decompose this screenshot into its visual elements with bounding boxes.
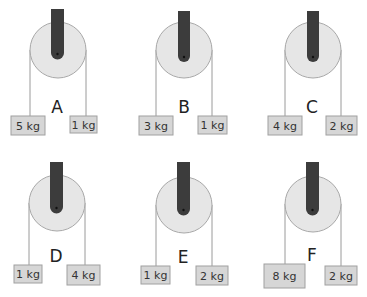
pulley-system-e: E 1 kg 2 kg (141, 162, 228, 285)
right-mass-label: 4 kg (72, 269, 96, 282)
pulley-mount (177, 162, 190, 216)
pulley-mount (50, 162, 63, 214)
right-mass-label: 2 kg (200, 270, 224, 283)
system-label: B (178, 97, 190, 117)
left-mass-label: 1 kg (144, 269, 168, 282)
system-label: E (178, 247, 189, 267)
pulley-system-d: D 1 kg 4 kg (14, 162, 100, 285)
system-label: C (306, 97, 318, 117)
left-mass-label: 3 kg (144, 120, 168, 133)
left-mass-label: 1 kg (16, 268, 40, 281)
axle-icon (311, 209, 313, 211)
pulley-system-a: A 5 kg 1 kg (11, 9, 97, 135)
axle-icon (182, 209, 184, 211)
right-mass-label: 2 kg (329, 270, 353, 283)
pulley-mount (307, 11, 319, 62)
system-label: D (49, 246, 62, 266)
left-mass-label: 5 kg (16, 120, 40, 133)
right-mass-label: 1 kg (72, 119, 96, 132)
right-mass-label: 2 kg (330, 120, 354, 133)
pulley-system-b: B 3 kg 1 kg (139, 11, 227, 135)
pulley-diagram: A 5 kg 1 kg B 3 kg 1 kg C 4 kg 2 kg (0, 0, 367, 297)
right-mass-label: 1 kg (201, 119, 225, 132)
axle-icon (56, 53, 58, 55)
pulley-mount (51, 9, 64, 60)
axle-icon (183, 56, 185, 58)
pulley-system-f: F 8 kg 2 kg (264, 162, 357, 288)
pulley-mount (306, 162, 319, 216)
pulley-mount (178, 11, 190, 62)
axle-icon (55, 207, 57, 209)
system-label: F (307, 245, 317, 265)
system-label: A (51, 97, 63, 117)
axle-icon (312, 56, 314, 58)
left-mass-label: 4 kg (273, 120, 297, 133)
left-mass-label: 8 kg (273, 270, 297, 283)
pulley-system-c: C 4 kg 2 kg (268, 11, 357, 135)
